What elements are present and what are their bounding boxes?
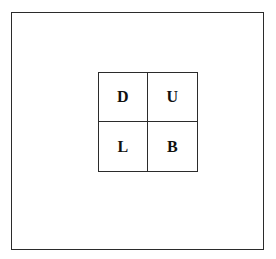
grid-cell-back: B (148, 122, 197, 171)
two-by-two-grid: D U L B (98, 72, 198, 172)
figure-canvas: D U L B (0, 0, 276, 259)
grid-cell-label-down: D (117, 89, 129, 105)
grid-cell-up: U (148, 73, 197, 122)
grid-cell-label-left: L (118, 139, 129, 155)
grid-cell-down: D (99, 73, 148, 122)
grid-cell-label-up: U (167, 89, 179, 105)
grid-cell-left: L (99, 122, 148, 171)
grid-cell-label-back: B (167, 139, 178, 155)
